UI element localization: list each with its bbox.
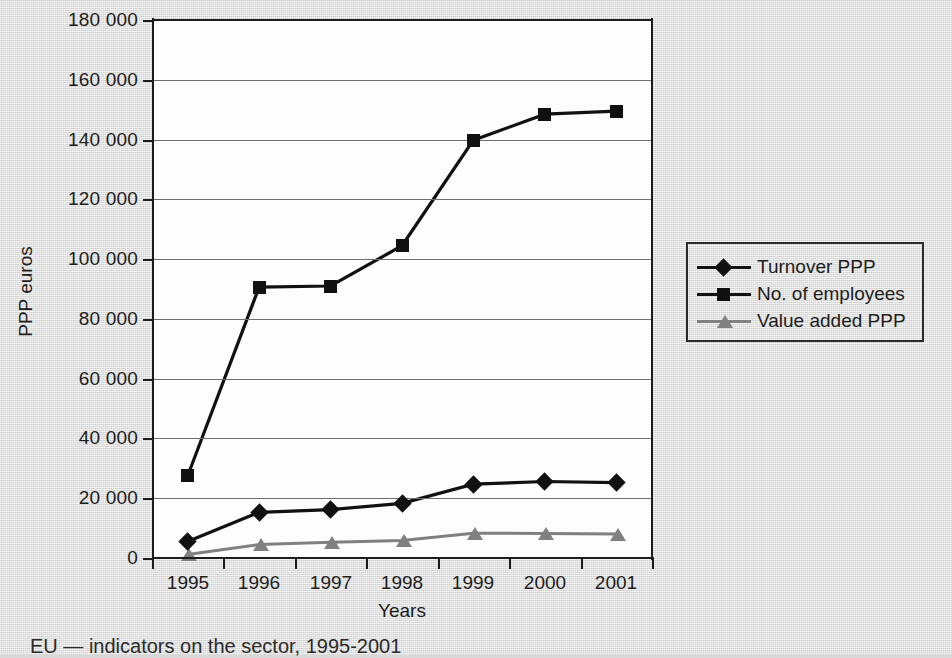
plot-top-border	[152, 19, 653, 21]
y-axis-tick-label-text: 120 000	[18, 189, 138, 208]
y-axis-tick-label: 60 000	[10, 369, 138, 388]
y-axis-tick-label-text: 180 000	[18, 10, 138, 29]
y-axis-tick-label-text: 20 000	[18, 488, 138, 507]
x-axis-tick	[581, 559, 583, 569]
legend-item[interactable]: Value added PPP	[688, 307, 922, 334]
y-axis-tick	[143, 498, 152, 500]
y-axis-tick-label-text: 0	[18, 548, 138, 567]
gridline	[152, 379, 652, 380]
plot-area	[152, 20, 652, 558]
y-axis-tick	[143, 558, 152, 560]
y-axis-tick-label-text: 100 000	[18, 249, 138, 268]
y-axis-tick	[143, 80, 152, 82]
y-axis-tick-label-text: 160 000	[18, 70, 138, 89]
x-axis-line	[152, 557, 654, 559]
series-layer	[152, 20, 652, 558]
y-axis-tick-label-text: 60 000	[18, 369, 138, 388]
figure-caption: EU — indicators on the sector, 1995-2001	[30, 634, 730, 658]
x-axis-tick	[295, 559, 297, 569]
y-axis-tick-label-text: 40 000	[18, 428, 138, 447]
y-axis-tick	[143, 259, 152, 261]
x-axis-tick	[152, 559, 154, 569]
gridline	[152, 498, 652, 499]
y-axis-tick	[143, 379, 152, 381]
series-line-no-of-employees	[188, 111, 617, 476]
y-axis-tick-label: 20 000	[10, 488, 138, 507]
legend-swatch	[697, 284, 751, 304]
y-axis-tick	[143, 140, 152, 142]
x-axis-tick	[366, 559, 368, 569]
y-axis-tick-label-text: 140 000	[18, 130, 138, 149]
gridline	[152, 438, 652, 439]
y-axis-tick	[143, 199, 152, 201]
gridline	[152, 140, 652, 141]
legend-label: Value added PPP	[751, 311, 906, 331]
gridline	[152, 80, 652, 81]
y-axis-tick-label: 140 000	[10, 130, 138, 149]
legend-swatch	[697, 311, 751, 331]
legend-label: Turnover PPP	[751, 257, 876, 277]
triangle-marker-icon	[717, 315, 733, 328]
x-axis-tick-label: 2001	[571, 572, 661, 594]
y-axis-tick-label: 160 000	[10, 70, 138, 89]
plot-right-border	[651, 18, 653, 560]
gridline	[152, 199, 652, 200]
y-axis-tick-label: 120 000	[10, 189, 138, 208]
y-axis-line	[152, 18, 154, 560]
legend-label: No. of employees	[751, 284, 905, 304]
y-axis-tick	[143, 438, 152, 440]
y-axis-tick-label: 100 000	[10, 249, 138, 268]
y-axis-title: PPP euros	[16, 227, 35, 357]
legend-swatch	[697, 257, 751, 277]
y-axis-tick	[143, 20, 152, 22]
x-axis-tick	[223, 559, 225, 569]
gridline	[152, 259, 652, 260]
x-axis-title: Years	[152, 600, 652, 622]
x-axis-tick	[652, 559, 654, 569]
chart-legend: Turnover PPPNo. of employeesValue added …	[686, 242, 924, 342]
legend-item[interactable]: Turnover PPP	[688, 253, 922, 280]
gridline	[152, 319, 652, 320]
legend-item[interactable]: No. of employees	[688, 280, 922, 307]
y-axis-tick-label: 180 000	[10, 10, 138, 29]
series-line-value-added-ppp	[188, 533, 617, 554]
y-axis-tick-label: 0	[10, 548, 138, 567]
y-axis-tick-label: 80 000	[10, 309, 138, 328]
y-axis-tick-label-text: 80 000	[18, 309, 138, 328]
y-axis-tick	[143, 319, 152, 321]
y-axis-tick-label: 40 000	[10, 428, 138, 447]
diamond-marker-icon	[714, 258, 732, 276]
x-axis-tick	[438, 559, 440, 569]
x-axis-tick	[509, 559, 511, 569]
square-marker-icon	[717, 288, 730, 301]
